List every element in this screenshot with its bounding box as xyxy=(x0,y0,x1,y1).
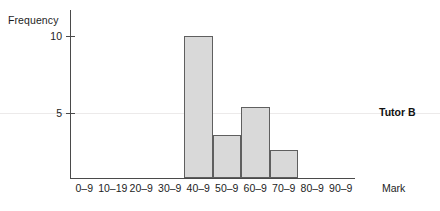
y-tick-label-5: 5 xyxy=(40,107,62,119)
x-axis-title: Mark xyxy=(382,182,405,194)
x-axis-tick-label: 90–9 xyxy=(329,182,352,194)
x-axis-line xyxy=(70,178,355,179)
x-axis-tick-label: 40–9 xyxy=(187,182,210,194)
histogram-bar xyxy=(184,36,213,178)
histogram-bar xyxy=(213,135,242,178)
x-axis-tick-label: 20–9 xyxy=(130,182,153,194)
x-axis-tick-label: 10–19 xyxy=(98,182,127,194)
x-axis-tick-label: 80–9 xyxy=(301,182,324,194)
x-axis-tick-label: 50–9 xyxy=(215,182,238,194)
x-axis-tick-label: 30–9 xyxy=(158,182,181,194)
y-axis-title: Frequency xyxy=(8,14,59,26)
histogram-chart: Frequency 10 5 0–910–1920–930–940–950–96… xyxy=(0,0,440,211)
histogram-bar xyxy=(241,107,270,178)
x-axis-tick-label: 0–9 xyxy=(75,182,93,194)
histogram-bar xyxy=(270,150,299,178)
bars-layer xyxy=(70,10,355,178)
x-axis-tick-label: 70–9 xyxy=(272,182,295,194)
y-tick-label-10: 10 xyxy=(40,30,62,42)
x-axis-tick-labels: 0–910–1920–930–940–950–960–970–980–990–9 xyxy=(70,182,355,196)
x-axis-tick-label: 60–9 xyxy=(244,182,267,194)
series-annotation-tutor-b: Tutor B xyxy=(379,106,416,118)
